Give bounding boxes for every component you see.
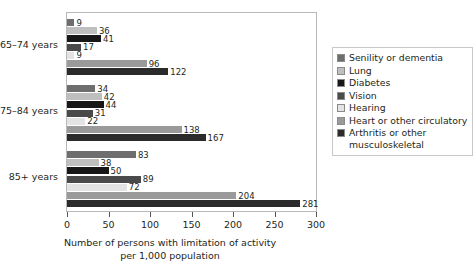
bar-row: 122 xyxy=(67,68,316,75)
legend-item[interactable]: Arthritis or other musculoskeletal xyxy=(337,127,468,150)
legend-item[interactable]: Lung xyxy=(337,65,468,77)
bar-value-label: 204 xyxy=(236,190,254,200)
x-tick xyxy=(109,212,110,217)
x-tick-label: 250 xyxy=(265,219,283,230)
legend-label: Heart or other circulatory xyxy=(349,115,467,127)
bar xyxy=(67,19,74,26)
x-tick-label: 50 xyxy=(102,219,114,230)
legend-swatch-icon xyxy=(337,79,345,87)
legend-item[interactable]: Hearing xyxy=(337,102,468,114)
legend-item[interactable]: Diabetes xyxy=(337,77,468,89)
x-axis-title: Number of persons with limitation of act… xyxy=(20,236,320,262)
bar-value-label: 17 xyxy=(81,42,94,52)
legend-item[interactable]: Senility or dementia xyxy=(337,52,468,64)
bar-value-label: 83 xyxy=(136,149,149,159)
bar-row: 38 xyxy=(67,159,316,166)
legend-label: Arthritis or other musculoskeletal xyxy=(349,127,468,150)
x-tick xyxy=(316,212,317,217)
category-axis-labels: 65–74 years75–84 years85+ years xyxy=(0,12,62,212)
bar-row: 9 xyxy=(67,52,316,59)
bar-row: 281 xyxy=(67,200,316,207)
bar-value-label: 89 xyxy=(141,174,154,184)
bar-value-label: 9 xyxy=(74,50,81,60)
bar xyxy=(67,167,109,174)
category-label: 65–74 years xyxy=(0,39,58,50)
bar-value-label: 41 xyxy=(101,34,114,44)
bar xyxy=(67,68,168,75)
bar-value-label: 96 xyxy=(147,58,160,68)
legend-item[interactable]: Vision xyxy=(337,90,468,102)
bar-value-label: 9 xyxy=(74,17,81,27)
bar-row: 138 xyxy=(67,126,316,133)
bar-row: 96 xyxy=(67,60,316,67)
x-tick xyxy=(275,212,276,217)
legend-label: Diabetes xyxy=(349,77,390,89)
bar xyxy=(67,118,85,125)
legend: Senility or dementiaLungDiabetesVisionHe… xyxy=(332,47,473,156)
x-tick xyxy=(150,212,151,217)
bar xyxy=(67,159,99,166)
bar-row: 17 xyxy=(67,44,316,51)
bar xyxy=(67,85,95,92)
bar xyxy=(67,200,300,207)
legend-label: Senility or dementia xyxy=(349,52,443,64)
x-tick xyxy=(192,212,193,217)
x-axis-ticks xyxy=(66,212,317,219)
legend-swatch-icon xyxy=(337,104,345,112)
bar-value-label: 167 xyxy=(206,132,224,142)
x-axis-title-line1: Number of persons with limitation of act… xyxy=(20,236,320,249)
bar-row: 204 xyxy=(67,192,316,199)
x-tick-label: 300 xyxy=(307,219,325,230)
category-label: 75–84 years xyxy=(0,105,58,116)
x-tick xyxy=(67,212,68,217)
bar-value-label: 122 xyxy=(168,66,186,76)
bar xyxy=(67,27,97,34)
x-tick-label: 100 xyxy=(141,219,159,230)
legend-swatch-icon xyxy=(337,67,345,75)
x-tick-label: 200 xyxy=(224,219,242,230)
bar-chart: 65–74 years75–84 years85+ years 93641179… xyxy=(0,0,476,274)
bars-container: 9364117996122344244312213816783385089722… xyxy=(67,13,316,211)
bar xyxy=(67,134,206,141)
bar-value-label: 22 xyxy=(85,116,98,126)
bar xyxy=(67,192,236,199)
bar-row: 89 xyxy=(67,176,316,183)
legend-label: Lung xyxy=(349,65,372,77)
bar-row: 41 xyxy=(67,35,316,42)
legend-swatch-icon xyxy=(337,117,345,125)
bar xyxy=(67,184,127,191)
category-label: 85+ years xyxy=(9,171,58,182)
x-axis-tick-labels: 050100150200250300 xyxy=(0,219,380,233)
bar-row: 167 xyxy=(67,134,316,141)
legend-swatch-icon xyxy=(337,92,345,100)
bar-row: 72 xyxy=(67,184,316,191)
legend-item[interactable]: Heart or other circulatory xyxy=(337,115,468,127)
bar xyxy=(67,60,147,67)
bar xyxy=(67,52,74,59)
legend-swatch-icon xyxy=(337,129,345,137)
bar-value-label: 281 xyxy=(300,198,318,208)
bar xyxy=(67,93,102,100)
legend-label: Vision xyxy=(349,90,377,102)
x-tick-label: 0 xyxy=(64,219,70,230)
bar xyxy=(67,126,182,133)
x-tick-label: 150 xyxy=(182,219,200,230)
bar-row: 31 xyxy=(67,110,316,117)
bar-row: 50 xyxy=(67,167,316,174)
bar-value-label: 138 xyxy=(182,124,200,134)
bar-value-label: 72 xyxy=(127,182,140,192)
x-axis-title-line2: per 1,000 population xyxy=(20,249,320,262)
bar-value-label: 50 xyxy=(109,166,122,176)
legend-label: Hearing xyxy=(349,102,386,114)
x-tick xyxy=(233,212,234,217)
legend-swatch-icon xyxy=(337,54,345,62)
